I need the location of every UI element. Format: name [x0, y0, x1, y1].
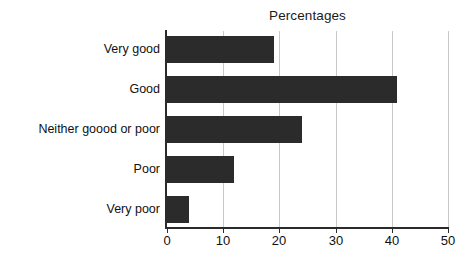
category-label-very-poor: Very poor: [0, 202, 160, 216]
category-label-neither-goood-or-poor: Neither goood or poor: [0, 122, 160, 136]
x-tick-label-20: 20: [259, 233, 299, 248]
gridline-50: [448, 31, 449, 228]
category-label-poor: Poor: [0, 162, 160, 176]
gridline-30: [336, 31, 337, 228]
bar-chart: Percentages Very good Good Neither goood…: [0, 0, 470, 267]
chart-title: Percentages: [167, 8, 448, 23]
category-label-very-good: Very good: [0, 42, 160, 56]
bar-neither-goood-or-poor: [167, 116, 302, 143]
y-axis-line: [165, 30, 167, 229]
bar-very-good: [167, 36, 274, 63]
x-tick-label-50: 50: [428, 233, 468, 248]
bar-good: [167, 76, 397, 103]
gridline-40: [392, 31, 393, 228]
x-tick-label-30: 30: [316, 233, 356, 248]
x-tick-label-0: 0: [147, 233, 187, 248]
bar-very-poor: [167, 196, 189, 223]
x-tick-label-10: 10: [203, 233, 243, 248]
bar-poor: [167, 156, 234, 183]
x-tick-label-40: 40: [372, 233, 412, 248]
x-axis-line: [165, 227, 449, 229]
category-label-good: Good: [0, 82, 160, 96]
plot-area: [167, 31, 448, 228]
